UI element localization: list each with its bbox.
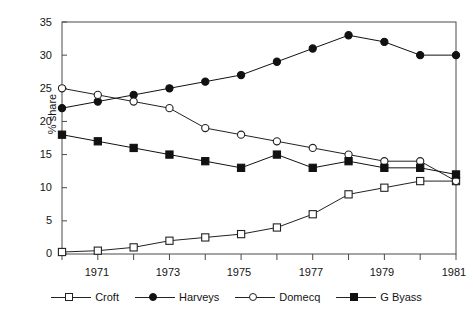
data-point [273,224,280,231]
legend-item-harveys: Harveys [135,291,219,303]
data-point [417,52,424,59]
legend-label-croft: Croft [95,291,119,303]
plot-canvas [0,0,473,317]
series-domecq [58,85,459,185]
data-point [166,151,173,158]
data-point [130,244,137,251]
chart-figure: % share 35 30 25 20 15 10 5 0 1971 1973 … [0,0,473,317]
data-point [237,231,244,238]
data-point [417,164,424,171]
series-croft [58,177,459,255]
data-point [309,164,316,171]
open-square-icon [65,293,73,301]
data-point [58,131,65,138]
data-point [452,171,459,178]
data-point [166,85,173,92]
data-point [381,38,388,45]
series-line [62,88,456,181]
legend-swatch-domecq [235,291,275,303]
data-point [309,211,316,218]
data-point [202,78,209,85]
legend-label-gbyass: G Byass [380,291,422,303]
data-point [273,138,280,145]
data-point [381,164,388,171]
filled-square-icon [350,293,358,301]
legend-item-domecq: Domecq [235,291,320,303]
data-point [130,98,137,105]
series-line [62,135,456,175]
data-point [94,247,101,254]
data-point [417,177,424,184]
series-line [62,181,456,252]
legend-item-croft: Croft [51,291,119,303]
data-point [202,158,209,165]
series-harveys [58,32,459,112]
data-point [58,85,65,92]
data-point [237,71,244,78]
data-point [309,144,316,151]
legend-swatch-gbyass [336,291,376,303]
data-point [237,131,244,138]
data-point [345,32,352,39]
legend-item-gbyass: G Byass [336,291,422,303]
data-point [452,52,459,59]
data-point [166,237,173,244]
data-point [345,158,352,165]
series-line [62,35,456,108]
data-point [273,151,280,158]
series-layer [58,32,459,256]
data-point [345,191,352,198]
data-point [130,144,137,151]
legend-label-harveys: Harveys [179,291,219,303]
data-point [58,248,65,255]
legend-label-domecq: Domecq [279,291,320,303]
data-point [202,124,209,131]
data-point [202,234,209,241]
filled-circle-icon [149,293,157,301]
open-circle-icon [249,293,257,301]
data-point [273,58,280,65]
data-point [309,45,316,52]
data-point [166,105,173,112]
data-point [94,91,101,98]
axis-ticks [62,22,456,260]
data-point [94,138,101,145]
data-point [237,164,244,171]
data-point [381,184,388,191]
data-point [58,105,65,112]
legend-swatch-croft [51,291,91,303]
chart-legend: Croft Harveys Domecq G Byass [0,286,473,308]
legend-swatch-harveys [135,291,175,303]
